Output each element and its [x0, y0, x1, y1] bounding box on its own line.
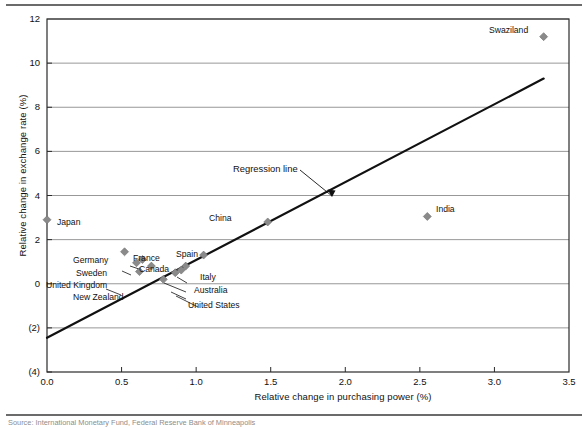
source-note: Source: International Monetary Fund, Fed… [8, 418, 568, 427]
point-label-australia: Australia [194, 285, 227, 295]
y-tick-label: 6 [6, 145, 40, 156]
x-tick-marks [122, 367, 495, 372]
point-label-italy: Italy [200, 272, 216, 282]
y-tick-label: 4 [6, 190, 40, 201]
x-tick-label: 3.5 [549, 376, 588, 387]
x-axis-title: Relative change in purchasing power (%) [218, 391, 468, 402]
regression-line-label: Regression line [233, 163, 298, 174]
x-tick-label: 2.0 [325, 376, 365, 387]
point-label-china: China [209, 213, 231, 223]
x-tick-label: 1.0 [176, 376, 216, 387]
point-label-germany: Germany [73, 255, 108, 265]
scatter-plot-canvas [0, 0, 588, 428]
figure-container: Relative change in exchange rate (%) Rel… [0, 0, 588, 428]
point-label-france: France [133, 253, 160, 263]
x-tick-label: 0.0 [27, 376, 67, 387]
y-tick-label: 0 [6, 278, 40, 289]
y-tick-label: (2) [6, 322, 40, 333]
y-tick-label: 10 [6, 57, 40, 68]
point-label-sweden: Sweden [76, 268, 107, 278]
point-label-japan: Japan [57, 217, 80, 227]
marker-germany [121, 248, 129, 256]
point-label-spain: Spain [176, 249, 198, 259]
marker-japan [43, 216, 51, 224]
point-label-swaziland: Swaziland [489, 25, 528, 35]
marker-swaziland [540, 33, 548, 41]
y-tick-label: 2 [6, 234, 40, 245]
marker-india [423, 212, 431, 220]
point-label-new-zealand: New Zealand [73, 292, 124, 302]
point-label-united-kingdom: United Kingdom [46, 280, 107, 290]
point-label-canada: Canada [139, 264, 169, 274]
gridlines-group [47, 19, 569, 328]
x-tick-label: 2.5 [400, 376, 440, 387]
y-tick-label: 8 [6, 101, 40, 112]
y-tick-label: 12 [6, 13, 40, 24]
x-tick-label: 3.0 [474, 376, 514, 387]
data-point-markers [43, 33, 548, 284]
point-label-india: India [436, 204, 455, 214]
x-tick-label: 0.5 [102, 376, 142, 387]
x-tick-label: 1.5 [251, 376, 291, 387]
point-label-united-states: United States [188, 300, 240, 310]
